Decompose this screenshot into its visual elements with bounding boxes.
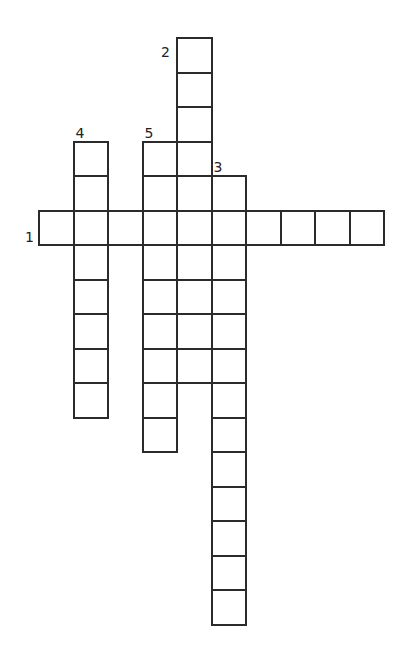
crossword-cell[interactable] xyxy=(176,72,213,109)
crossword-cell[interactable] xyxy=(142,348,179,385)
crossword-cell[interactable] xyxy=(142,382,179,419)
crossword-cell[interactable] xyxy=(73,313,110,350)
clue-number-4: 4 xyxy=(76,126,85,140)
crossword-cell[interactable] xyxy=(211,520,248,557)
crossword-cell[interactable] xyxy=(142,417,179,454)
crossword-cell[interactable] xyxy=(176,313,213,350)
crossword-cell[interactable] xyxy=(211,348,248,385)
crossword-cell[interactable] xyxy=(142,210,179,247)
crossword-cell[interactable] xyxy=(73,348,110,385)
crossword-cell[interactable] xyxy=(176,210,213,247)
crossword-cell[interactable] xyxy=(38,210,75,247)
crossword-cell[interactable] xyxy=(211,382,248,419)
crossword-cell[interactable] xyxy=(211,486,248,523)
crossword-cell[interactable] xyxy=(176,141,213,178)
crossword-cell[interactable] xyxy=(211,244,248,281)
crossword-cell[interactable] xyxy=(245,210,282,247)
crossword-cell[interactable] xyxy=(211,313,248,350)
crossword-cell[interactable] xyxy=(176,244,213,281)
crossword-cell[interactable] xyxy=(211,451,248,488)
clue-number-2: 2 xyxy=(161,45,170,59)
crossword-cell[interactable] xyxy=(107,210,144,247)
crossword-cell[interactable] xyxy=(73,244,110,281)
clue-number-5: 5 xyxy=(145,126,154,140)
clue-number-3: 3 xyxy=(214,160,223,174)
crossword-cell[interactable] xyxy=(142,313,179,350)
crossword-cell[interactable] xyxy=(142,244,179,281)
crossword-cell[interactable] xyxy=(211,589,248,626)
crossword-cell[interactable] xyxy=(211,210,248,247)
crossword-grid: 12345 xyxy=(0,0,400,660)
crossword-cell[interactable] xyxy=(211,279,248,316)
crossword-cell[interactable] xyxy=(314,210,351,247)
crossword-cell[interactable] xyxy=(176,106,213,143)
crossword-cell[interactable] xyxy=(142,175,179,212)
crossword-cell[interactable] xyxy=(142,279,179,316)
crossword-cell[interactable] xyxy=(73,175,110,212)
crossword-cell[interactable] xyxy=(176,348,213,385)
clue-number-1: 1 xyxy=(25,230,34,244)
crossword-cell[interactable] xyxy=(211,555,248,592)
crossword-cell[interactable] xyxy=(349,210,386,247)
crossword-cell[interactable] xyxy=(176,279,213,316)
crossword-cell[interactable] xyxy=(73,382,110,419)
crossword-cell[interactable] xyxy=(176,175,213,212)
crossword-cell[interactable] xyxy=(280,210,317,247)
crossword-cell[interactable] xyxy=(73,141,110,178)
crossword-cell[interactable] xyxy=(176,37,213,74)
crossword-cell[interactable] xyxy=(73,210,110,247)
crossword-cell[interactable] xyxy=(211,175,248,212)
crossword-cell[interactable] xyxy=(142,141,179,178)
crossword-cell[interactable] xyxy=(211,417,248,454)
crossword-cell[interactable] xyxy=(73,279,110,316)
